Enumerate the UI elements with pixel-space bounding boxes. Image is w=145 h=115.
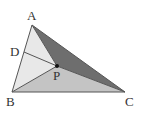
label-a: A xyxy=(27,8,37,23)
label-p: P xyxy=(53,68,60,83)
label-d: D xyxy=(10,44,19,59)
label-b: B xyxy=(6,94,15,109)
label-c: C xyxy=(125,94,134,109)
triangle-diagram: A D P B C xyxy=(0,0,145,115)
